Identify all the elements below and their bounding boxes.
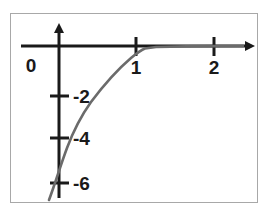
y-tick-label-neg2: -2 <box>73 86 90 107</box>
figure-frame: 0 1 2 -2 -4 -6 <box>10 13 258 203</box>
plot-canvas: 0 1 2 -2 -4 -6 <box>11 14 257 202</box>
y-tick-label-neg4: -4 <box>73 128 90 149</box>
x-tick-label-2: 2 <box>209 57 220 78</box>
x-tick-label-1: 1 <box>131 57 142 78</box>
y-tick-label-neg6: -6 <box>73 173 90 194</box>
x-axis-arrow-icon <box>245 41 255 51</box>
origin-label: 0 <box>26 55 37 76</box>
y-axis-arrow-icon <box>54 23 64 33</box>
